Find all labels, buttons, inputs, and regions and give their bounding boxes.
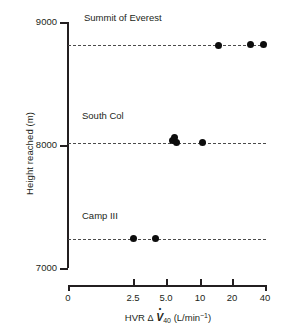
reference-line-south-col	[68, 143, 266, 144]
data-point-south-col-3	[173, 139, 180, 146]
data-point-camp-iii-1	[130, 235, 137, 242]
x-axis-unit-close: )	[208, 312, 211, 323]
x-axis-label-prefix: HVR	[125, 312, 145, 323]
x-axis-tick-5-0	[166, 279, 168, 286]
x-axis-tick-40	[265, 285, 267, 291]
x-axis-label-subscript: 40	[163, 317, 171, 324]
y-axis-tick-9000	[60, 22, 68, 24]
y-axis-tick-label-8000: 8000	[0, 139, 57, 150]
x-axis-tick-0	[68, 285, 70, 291]
data-point-summit-2	[247, 41, 254, 48]
data-point-south-col-4	[199, 139, 206, 146]
reference-label-south-col: South Col	[82, 110, 124, 121]
y-axis-label: Height reached (m)	[24, 79, 35, 229]
reference-line-summit	[68, 45, 266, 46]
x-axis-tick-label-0: 0	[48, 292, 88, 303]
y-axis-tick-label-9000: 9000	[0, 16, 57, 27]
data-point-summit-1	[215, 42, 222, 49]
y-axis-tick-label-7000: 7000	[0, 262, 57, 273]
reference-label-camp-iii: Camp III	[82, 210, 118, 221]
y-axis-tick-7000	[60, 268, 68, 270]
data-point-camp-iii-2	[152, 235, 159, 242]
scatter-plot-figure: Height reached (m) 9000 8000 7000 0 2.5 …	[0, 0, 283, 336]
x-axis-tick-2-5	[133, 279, 135, 286]
x-axis-tick-label-40: 40	[245, 292, 283, 303]
x-axis-unit-open: (L/min	[174, 312, 200, 323]
reference-line-camp-iii	[68, 239, 266, 240]
x-axis-tick-20	[232, 279, 234, 286]
x-axis-label: HVR Δ V40 (L/min−1)	[68, 311, 268, 324]
delta-symbol: Δ	[148, 313, 154, 323]
data-point-summit-3	[260, 41, 267, 48]
x-axis-unit-exponent: −1	[200, 312, 208, 319]
x-axis-tick-10	[200, 279, 202, 286]
y-axis-tick-8000	[60, 145, 68, 147]
v-dot-symbol: V	[156, 311, 163, 323]
reference-label-summit: Summit of Everest	[84, 12, 162, 23]
